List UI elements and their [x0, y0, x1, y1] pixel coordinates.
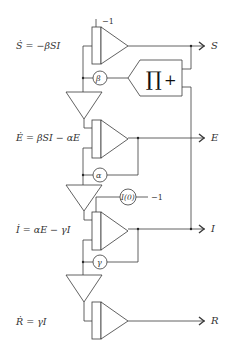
- equation-s: Ṡ = −βSI: [16, 40, 60, 51]
- inverter-3: [66, 275, 102, 302]
- alpha-label: α: [96, 171, 102, 180]
- equation-r: Ṙ = γI: [15, 316, 47, 327]
- beta-label: β: [95, 74, 101, 83]
- inverter-2: [66, 185, 102, 211]
- equation-i: İ = αE − γI: [15, 224, 71, 235]
- integrator-r: [92, 302, 128, 339]
- equation-e: Ė = βSI − αE: [15, 132, 80, 143]
- i-initial-label: I(0): [120, 193, 135, 202]
- inverter-1: [66, 92, 102, 119]
- output-label-e: E: [210, 132, 219, 143]
- multiplier-block: ∏ +: [128, 60, 182, 96]
- integrator-e: [92, 120, 128, 158]
- gamma-label: γ: [97, 258, 102, 267]
- analog-circuit-diagram: Ṡ = −βSI Ė = βSI − αE İ = αE − γI Ṙ = γI…: [0, 0, 231, 355]
- multiplier-sign: +: [164, 71, 177, 89]
- output-label-i: I: [210, 223, 216, 234]
- output-label-s: S: [211, 40, 218, 51]
- s-initial-condition: −1: [102, 17, 114, 26]
- output-label-r: R: [210, 315, 219, 326]
- integrator-i: [92, 212, 128, 250]
- product-icon: ∏: [146, 67, 162, 91]
- i-initial-constant: −1: [151, 193, 163, 202]
